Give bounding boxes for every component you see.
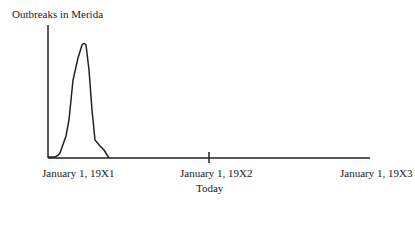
x-tick-label-19x2: January 1, 19X2: [180, 167, 252, 179]
x-tick-label-19x1: January 1, 19X1: [42, 167, 114, 179]
x-tick-label-19x3: January 1, 19X3: [340, 167, 412, 179]
outbreak-curve: [48, 44, 109, 159]
today-label: Today: [196, 182, 223, 194]
